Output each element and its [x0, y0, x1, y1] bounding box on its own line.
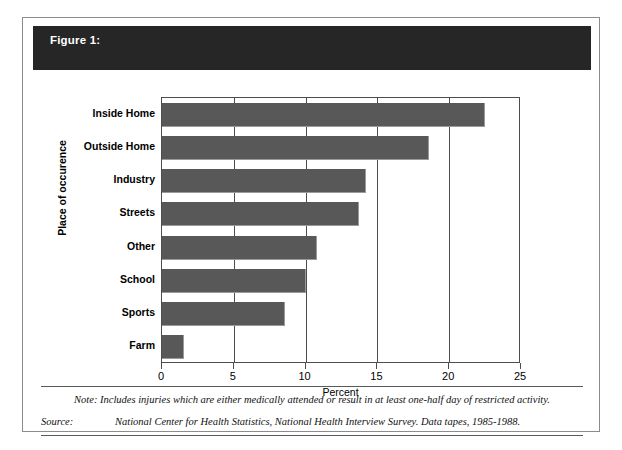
figure-footer: Note: Includes injuries which are either…: [41, 386, 583, 436]
bars-layer: [162, 98, 519, 362]
source-row: Source:National Center for Health Statis…: [41, 416, 583, 427]
bar-fill: [162, 269, 306, 293]
figure-title-banner: Figure 1: Percent Distribution of Place …: [33, 26, 591, 70]
bar: [162, 269, 306, 293]
x-tick-15: [376, 363, 377, 369]
figure-frame: Figure 1: Percent Distribution of Place …: [22, 17, 600, 432]
bar: [162, 302, 285, 326]
y-axis-label-industry: Industry: [25, 173, 155, 185]
bar: [162, 136, 429, 160]
footer-rule-top: [41, 386, 583, 387]
y-axis-label-streets: Streets: [25, 206, 155, 218]
x-tick-label-0: 0: [158, 370, 164, 382]
bar-fill: [162, 202, 359, 226]
bar: [162, 169, 366, 193]
y-axis-label-other: Other: [25, 240, 155, 252]
bar-fill: [162, 103, 485, 127]
plot-area: [161, 97, 520, 363]
x-tick-10: [305, 363, 306, 369]
bar-fill: [162, 335, 184, 359]
source-text: National Center for Health Statistics, N…: [115, 416, 520, 427]
x-tick-label-20: 20: [442, 370, 454, 382]
y-axis-label-sports: Sports: [25, 306, 155, 318]
x-tick-label-10: 10: [298, 370, 310, 382]
chart-area: Place of occurence Inside HomeOutside Ho…: [23, 70, 601, 388]
x-tick-label-25: 25: [514, 370, 526, 382]
footer-rule-bottom: [41, 435, 583, 436]
bar: [162, 103, 485, 127]
bar: [162, 335, 184, 359]
bar: [162, 236, 317, 260]
y-axis-label-outside-home: Outside Home: [25, 140, 155, 152]
bar: [162, 202, 359, 226]
x-tick-0: [161, 363, 162, 369]
source-label: Source:: [41, 416, 115, 427]
bar-fill: [162, 236, 317, 260]
note-text: Note: Includes injuries which are either…: [41, 394, 583, 405]
y-axis-label-inside-home: Inside Home: [25, 107, 155, 119]
x-tick-label-15: 15: [370, 370, 382, 382]
x-tick-20: [448, 363, 449, 369]
x-tick-5: [233, 363, 234, 369]
y-axis-category-labels: Inside HomeOutside HomeIndustryStreetsOt…: [23, 97, 155, 363]
y-axis-label-farm: Farm: [25, 339, 155, 351]
x-tick-25: [520, 363, 521, 369]
bar-fill: [162, 302, 285, 326]
x-tick-label-5: 5: [230, 370, 236, 382]
figure-number-label: Figure 1:: [50, 34, 100, 46]
y-axis-label-school: School: [25, 273, 155, 285]
bar-fill: [162, 169, 366, 193]
bar-fill: [162, 136, 429, 160]
